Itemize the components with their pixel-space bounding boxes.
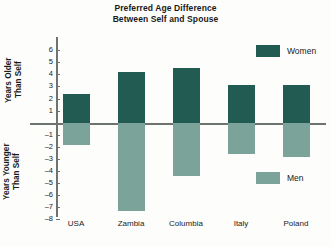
category-label-poland: Poland (266, 219, 326, 228)
category-label-columbia: Columbia (156, 219, 216, 228)
bar-women-zambia (118, 72, 145, 123)
lower-tick-mark (56, 195, 60, 196)
upper-tick-label: 3 (31, 81, 53, 90)
bar-men-italy (228, 123, 255, 154)
upper-tick-mark (56, 86, 60, 87)
legend-item-women: Women (256, 45, 316, 57)
lower-tick-label: –6 (29, 190, 53, 199)
bar-men-usa (63, 123, 90, 145)
category-label-usa: USA (46, 219, 106, 228)
bar-women-usa (63, 94, 90, 123)
upper-tick-mark (56, 99, 60, 100)
category-label-italy: Italy (211, 219, 271, 228)
lower-tick-mark (56, 159, 60, 160)
legend-label-women: Women (287, 46, 316, 56)
upper-tick-mark (56, 62, 60, 63)
legend-label-men: Men (287, 173, 304, 183)
lower-tick-label: –2 (29, 142, 53, 151)
lower-tick-label: –7 (29, 202, 53, 211)
upper-axis-title: Years Older Than Self (4, 38, 28, 122)
upper-tick-mark (56, 74, 60, 75)
bar-men-poland (283, 123, 310, 157)
legend-swatch-men-icon (256, 172, 280, 184)
lower-tick-mark (56, 171, 60, 172)
category-label-zambia: Zambia (101, 219, 161, 228)
upper-tick-mark (56, 50, 60, 51)
lower-tick-label: –4 (29, 166, 53, 175)
upper-tick-label: 4 (31, 69, 53, 78)
upper-tick-label: 2 (31, 94, 53, 103)
lower-tick-mark (56, 207, 60, 208)
bar-men-columbia (173, 123, 200, 176)
lower-tick-label: –3 (29, 154, 53, 163)
upper-tick-label: 5 (31, 57, 53, 66)
bar-men-zambia (118, 123, 145, 211)
upper-tick-mark (56, 111, 60, 112)
chart-plot-area: Years Older Than Self Years Younger Than… (0, 0, 331, 246)
lower-tick-mark (56, 135, 60, 136)
lower-axis-title: Years Younger Than Self (2, 126, 28, 218)
bar-women-columbia (173, 68, 200, 123)
upper-tick-label: 6 (31, 45, 53, 54)
legend-item-men: Men (256, 172, 304, 184)
bar-women-italy (228, 85, 255, 123)
legend-swatch-women-icon (256, 45, 280, 57)
upper-tick-label: 1 (31, 106, 53, 115)
lower-tick-label: –5 (29, 178, 53, 187)
lower-tick-mark (56, 183, 60, 184)
lower-tick-label: –1 (29, 130, 53, 139)
lower-tick-mark (56, 147, 60, 148)
bar-women-poland (283, 85, 310, 123)
